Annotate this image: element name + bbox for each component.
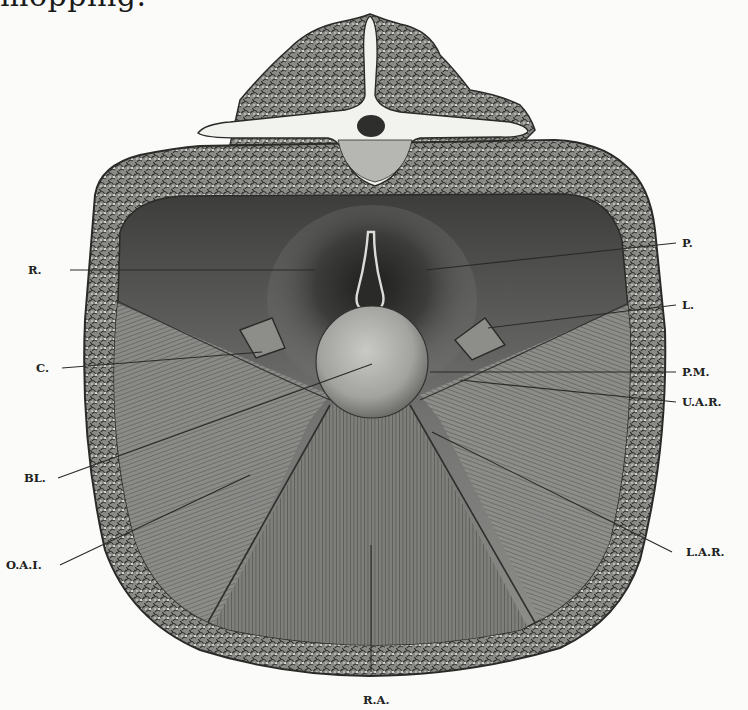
- label-R: R.: [28, 263, 42, 277]
- label-P: P.: [682, 236, 693, 250]
- anatomical-figure: R. C. BL. O.A.I. P. L. P.M. U.A.R. L.A.R…: [0, 0, 748, 710]
- bladder: [316, 306, 428, 418]
- spinal-canal: [357, 115, 385, 137]
- label-PM: P.M.: [682, 365, 709, 379]
- label-L: L.: [682, 298, 694, 312]
- label-LAR: L.A.R.: [686, 545, 725, 559]
- label-RA: R.A.: [363, 693, 390, 707]
- abdominal-cavity: [100, 194, 650, 660]
- label-UAR: U.A.R.: [682, 395, 721, 409]
- label-OAI: O.A.I.: [6, 558, 42, 572]
- label-C: C.: [36, 361, 49, 375]
- label-BL: BL.: [24, 471, 46, 485]
